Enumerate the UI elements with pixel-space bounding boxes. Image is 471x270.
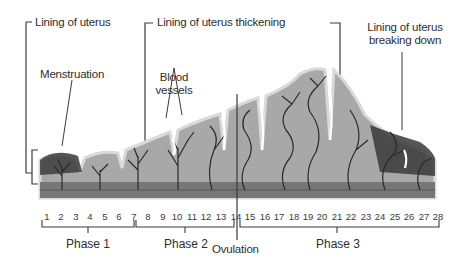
day-11: 11 (185, 211, 199, 222)
day-5: 5 (98, 211, 112, 222)
day-13: 13 (214, 211, 228, 222)
day-8: 8 (141, 211, 155, 222)
day-22: 22 (344, 211, 358, 222)
label-menstruation: Menstruation (40, 68, 104, 81)
day-28: 28 (431, 211, 445, 222)
day-21: 21 (330, 211, 344, 222)
day-19: 19 (301, 211, 315, 222)
day-9: 9 (156, 211, 170, 222)
day-17: 17 (272, 211, 286, 222)
day-3: 3 (69, 211, 83, 222)
label-breaking-down-line2: breaking down (360, 34, 450, 47)
day-26: 26 (402, 211, 416, 222)
day-16: 16 (258, 211, 272, 222)
day-4: 4 (83, 211, 97, 222)
day-27: 27 (417, 211, 431, 222)
day-20: 20 (315, 211, 329, 222)
day-15: 15 (243, 211, 257, 222)
label-blood-vessels: Blood vessels (150, 71, 198, 97)
menstruation-leader (62, 80, 72, 146)
phase-2-label: Phase 2 (164, 237, 208, 251)
label-blood-vessels-line1: Blood (150, 71, 198, 84)
phase-1-label: Phase 1 (66, 237, 110, 251)
label-lining-of-uterus: Lining of uterus (35, 16, 110, 29)
day-14: 14 (229, 211, 243, 222)
label-lining-breaking-down: Lining of uterus breaking down (360, 21, 450, 47)
label-ovulation: Ovulation (212, 243, 259, 256)
day-25: 25 (388, 211, 402, 222)
day-7: 7 (127, 211, 141, 222)
day-1: 1 (40, 211, 54, 222)
day-24: 24 (373, 211, 387, 222)
uterus-cycle-diagram: Lining of uterus Lining of uterus thicke… (0, 0, 471, 270)
label-blood-vessels-line2: vessels (150, 84, 198, 97)
lining-bracket-outer (26, 22, 32, 173)
label-lining-thickening: Lining of uterus thickening (157, 16, 285, 29)
day-10: 10 (170, 211, 184, 222)
phase-3-label: Phase 3 (316, 237, 360, 251)
label-breaking-down-line1: Lining of uterus (360, 21, 450, 34)
day-12: 12 (199, 211, 213, 222)
menstruation-blood-patch (40, 153, 82, 175)
lining-bracket-inner (32, 150, 38, 184)
day-2: 2 (54, 211, 68, 222)
day-18: 18 (287, 211, 301, 222)
day-6: 6 (112, 211, 126, 222)
day-23: 23 (359, 211, 373, 222)
